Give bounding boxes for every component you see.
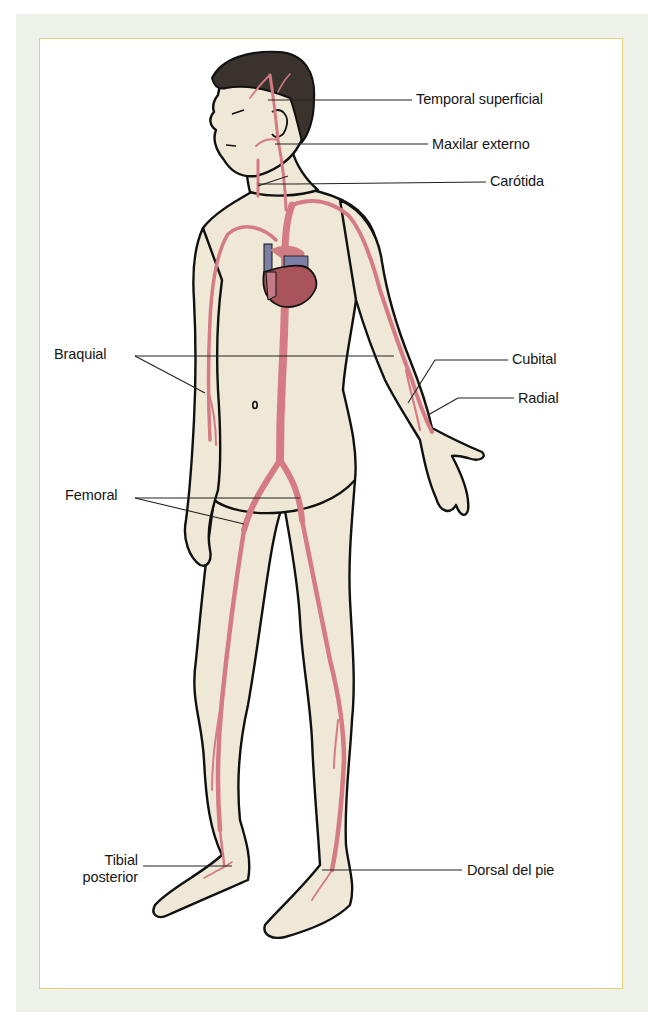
mouth [226,145,236,146]
label-tibial-posterior-line2: posterior [72,869,138,886]
label-maxilar-externo: Maxilar externo [432,136,530,153]
label-carotida: Carótida [490,173,544,190]
label-temporal-superficial: Temporal superficial [416,91,543,108]
label-dorsal-del-pie: Dorsal del pie [467,862,554,879]
label-tibial-posterior: Tibial posterior [72,852,138,886]
label-braquial: Braquial [54,346,106,363]
label-femoral: Femoral [65,487,117,504]
label-tibial-posterior-line1: Tibial [72,852,138,869]
label-cubital: Cubital [512,351,556,368]
label-radial: Radial [518,390,559,407]
